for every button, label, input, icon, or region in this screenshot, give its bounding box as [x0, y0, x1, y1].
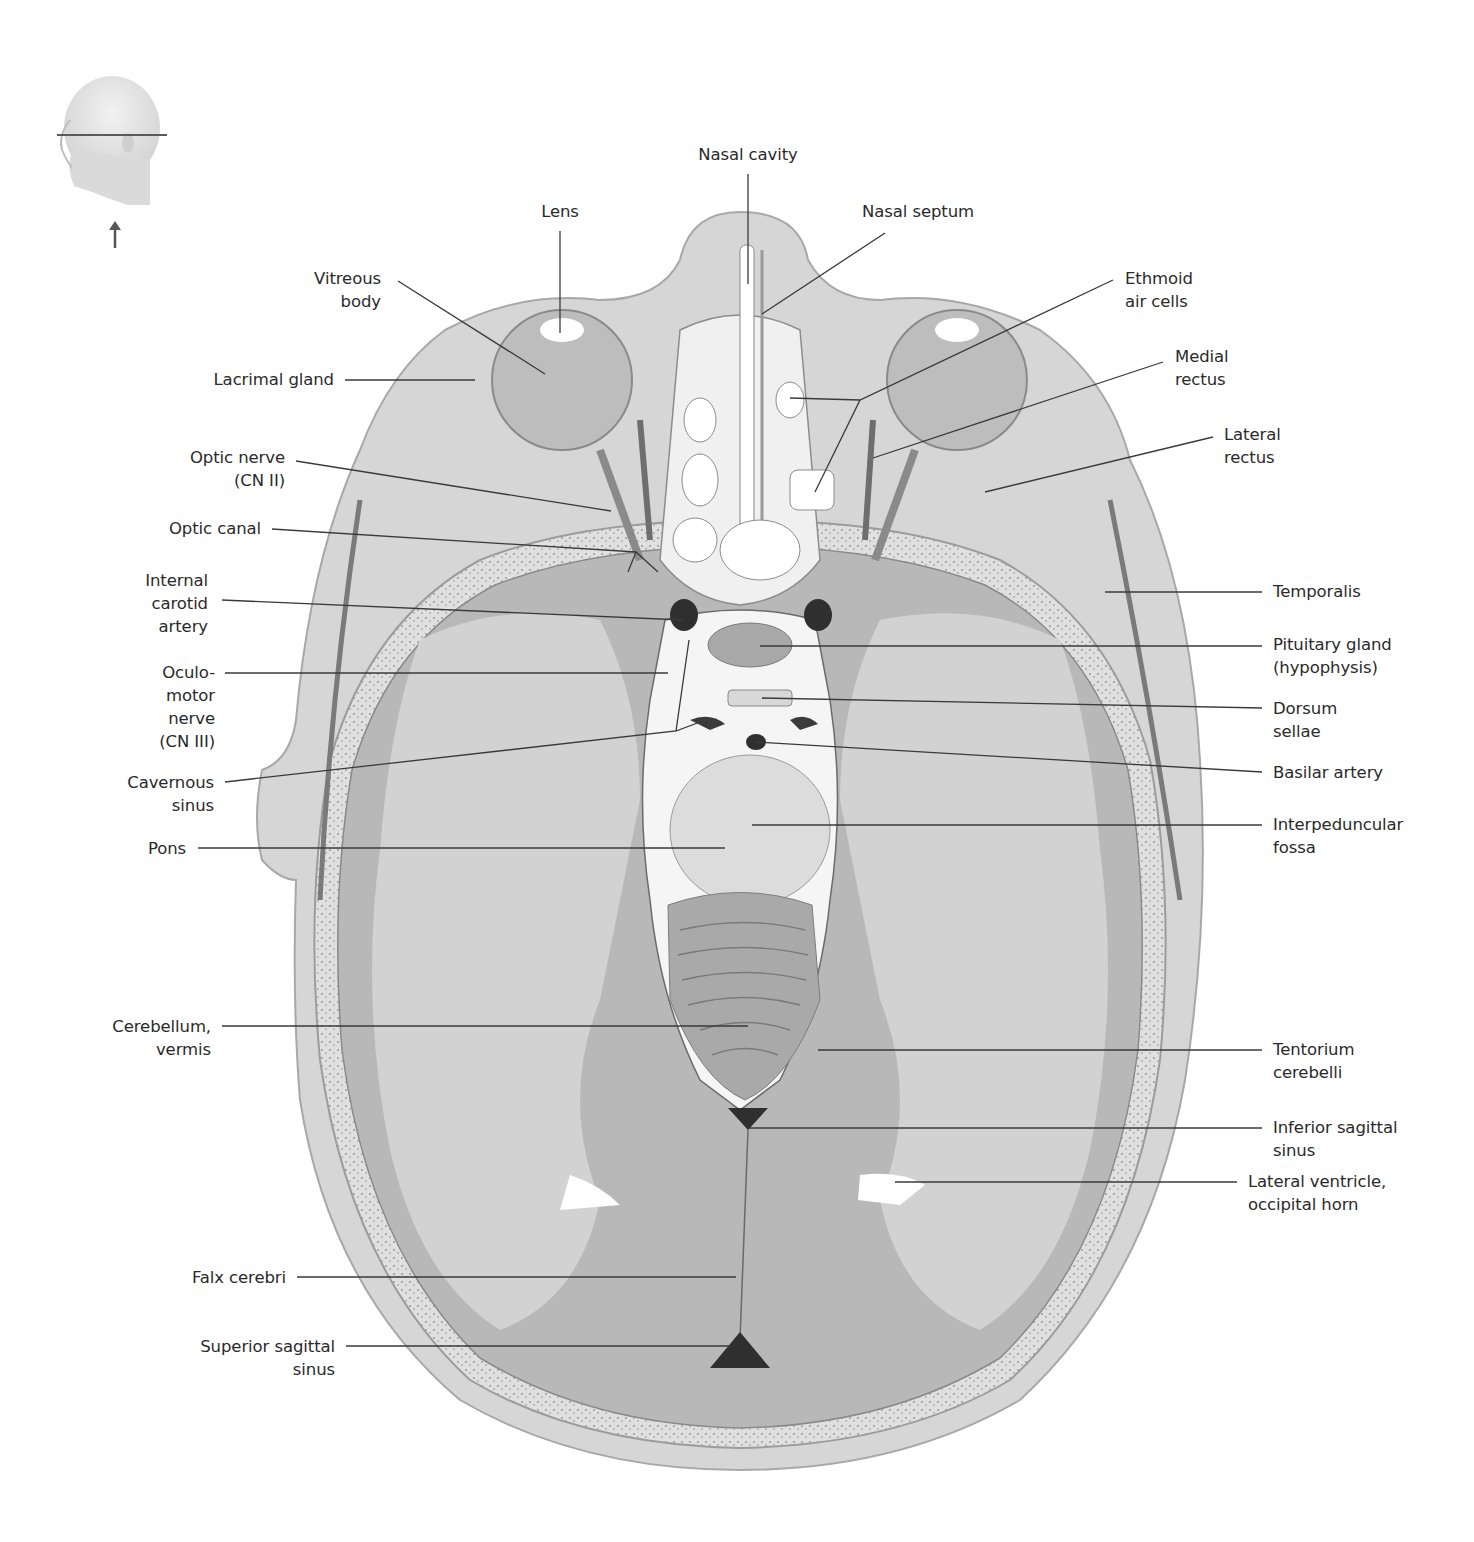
label-ethmoid-air-cells: Ethmoid air cells	[1125, 267, 1193, 313]
left-eye	[492, 310, 632, 450]
label-tentorium-cerebelli: Tentorium cerebelli	[1273, 1038, 1354, 1084]
label-oculomotor-nerve: Oculo- motor nerve (CN III)	[159, 661, 215, 753]
label-nasal-septum: Nasal septum	[862, 200, 974, 223]
label-dorsum-sellae: Dorsum sellae	[1273, 697, 1337, 743]
label-pituitary-gland: Pituitary gland (hypophysis)	[1273, 633, 1392, 679]
label-cavernous-sinus: Cavernous sinus	[127, 771, 214, 817]
head-orientation-icon	[57, 76, 167, 248]
axial-head-section	[0, 0, 1474, 1542]
label-superior-sagittal-sinus: Superior sagittal sinus	[200, 1335, 335, 1381]
label-vitreous-body: Vitreous body	[314, 267, 381, 313]
label-lacrimal-gland: Lacrimal gland	[214, 368, 334, 391]
label-lens: Lens	[460, 200, 660, 223]
label-pons: Pons	[148, 837, 186, 860]
label-lateral-ventricle-occipital-horn: Lateral ventricle, occipital horn	[1248, 1170, 1386, 1216]
label-internal-carotid-artery: Internal carotid artery	[145, 569, 208, 638]
label-interpeduncular-fossa: Interpeduncular fossa	[1273, 813, 1403, 859]
label-basilar-artery: Basilar artery	[1273, 761, 1383, 784]
label-lateral-rectus: Lateral rectus	[1224, 423, 1281, 469]
pituitary-gland	[708, 623, 792, 667]
anatomy-figure: Nasal cavityLensNasal septumVitreous bod…	[0, 0, 1474, 1542]
label-falx-cerebri: Falx cerebri	[192, 1266, 286, 1289]
label-optic-canal: Optic canal	[169, 517, 261, 540]
internal-carotid-artery	[670, 599, 698, 631]
label-medial-rectus: Medial rectus	[1175, 345, 1229, 391]
label-optic-nerve: Optic nerve (CN II)	[190, 446, 285, 492]
nasal-cavity	[740, 245, 754, 535]
label-temporalis: Temporalis	[1273, 580, 1361, 603]
label-cerebellum-vermis: Cerebellum, vermis	[112, 1015, 211, 1061]
label-inferior-sagittal-sinus: Inferior sagittal sinus	[1273, 1116, 1397, 1162]
pons	[670, 755, 830, 905]
label-nasal-cavity: Nasal cavity	[648, 143, 848, 166]
